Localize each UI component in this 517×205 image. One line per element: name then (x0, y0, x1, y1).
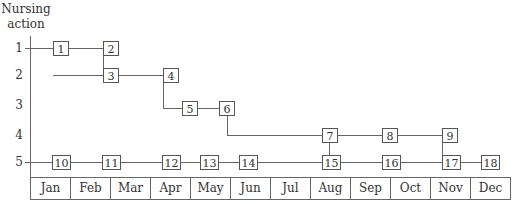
y-axis-title-line1: Nursing (0, 2, 52, 17)
month-dec: Dec (470, 177, 511, 200)
node-11: 11 (102, 155, 121, 170)
node-2: 2 (103, 41, 119, 56)
edge-row5 (30, 162, 490, 163)
node-15: 15 (322, 155, 341, 170)
month-oct: Oct (390, 177, 431, 200)
month-apr: Apr (150, 177, 191, 200)
node-18: 18 (481, 155, 500, 170)
node-6: 6 (219, 101, 235, 116)
month-sep: Sep (350, 177, 391, 200)
node-8: 8 (382, 128, 398, 143)
node-16: 16 (382, 155, 401, 170)
node-12: 12 (162, 155, 181, 170)
row-label-5: 5 (14, 155, 24, 169)
month-feb: Feb (70, 177, 111, 200)
month-nov: Nov (430, 177, 471, 200)
month-mar: Mar (110, 177, 151, 200)
node-7: 7 (322, 128, 338, 143)
node-13: 13 (200, 155, 219, 170)
node-14: 14 (239, 155, 258, 170)
row-label-1: 1 (14, 41, 24, 55)
month-jul: Jul (270, 177, 311, 200)
row-label-2: 2 (14, 68, 24, 82)
node-4: 4 (163, 68, 179, 83)
node-10: 10 (52, 155, 71, 170)
node-9: 9 (442, 128, 458, 143)
y-axis-line (30, 36, 31, 200)
month-jan: Jan (30, 177, 71, 200)
y-axis-title: Nursing action (0, 2, 52, 32)
node-17: 17 (442, 155, 461, 170)
month-jun: Jun (230, 177, 271, 200)
row-label-3: 3 (14, 98, 24, 112)
month-aug: Aug (310, 177, 351, 200)
edge-axis-1 (30, 48, 110, 49)
row-label-4: 4 (14, 128, 24, 142)
node-1: 1 (53, 41, 69, 56)
edge-row4 (227, 135, 449, 136)
node-3: 3 (103, 68, 119, 83)
node-5: 5 (182, 101, 198, 116)
y-axis-title-line2: action (0, 17, 52, 32)
month-may: May (190, 177, 231, 200)
